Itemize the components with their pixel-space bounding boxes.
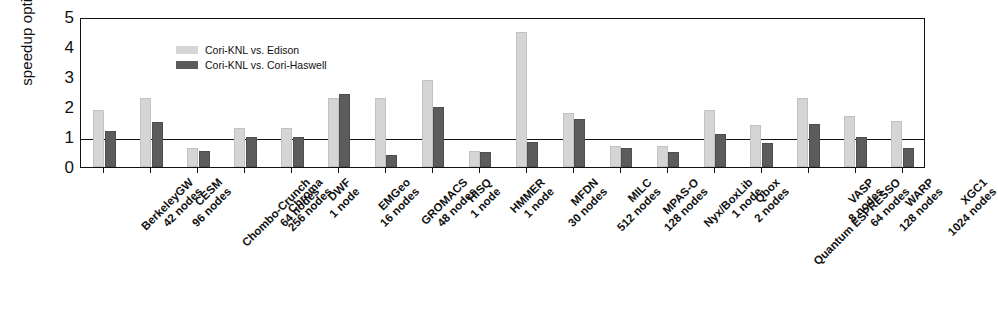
bar-group: [281, 19, 304, 167]
bar: [657, 146, 668, 167]
bar-group: [328, 19, 351, 167]
x-tick-mark: [291, 168, 292, 173]
bar: [480, 152, 491, 167]
legend-swatch-edison: [176, 46, 198, 54]
legend-label-edison: Cori-KNL vs. Edison: [205, 43, 299, 57]
x-tick-mark: [526, 168, 527, 173]
bar: [563, 113, 574, 167]
x-tick-mark: [902, 168, 903, 173]
y-tick-label: 0: [48, 159, 74, 176]
bar: [105, 131, 116, 167]
bar: [199, 151, 210, 168]
bar: [715, 134, 726, 167]
x-tick-label: DWF1 node: [318, 176, 362, 220]
x-tick-label: MPAS-O128 nodes: [652, 176, 709, 233]
bar: [891, 121, 902, 168]
bar: [516, 32, 527, 167]
legend-swatch-haswell: [176, 61, 198, 69]
y-tick-label: 5: [48, 9, 74, 26]
y-axis-title: speedup optimized: [18, 0, 38, 102]
bar: [704, 110, 715, 167]
bar: [527, 142, 538, 168]
x-tick-mark: [479, 168, 480, 173]
y-tick-label: 1: [48, 129, 74, 146]
bar-group: [93, 19, 116, 167]
legend-item: Cori-KNL vs. Cori-Haswell: [176, 58, 327, 72]
bar: [339, 94, 350, 168]
y-tick-label: 2: [48, 99, 74, 116]
bar-group: [516, 19, 539, 167]
bar: [152, 122, 163, 167]
legend: Cori-KNL vs. Edison Cori-KNL vs. Cori-Ha…: [176, 43, 327, 73]
bar: [762, 143, 773, 167]
y-tick-label: 3: [48, 69, 74, 86]
bar: [668, 152, 679, 167]
x-tick-mark: [150, 168, 151, 173]
x-tick-label: HMMER1 node: [508, 176, 556, 224]
bar-group: [844, 19, 867, 167]
bar-group: [704, 19, 727, 167]
bar: [281, 128, 292, 167]
x-tick-mark: [667, 168, 668, 173]
x-tick-mark: [714, 168, 715, 173]
bar: [844, 116, 855, 167]
bar: [610, 146, 621, 167]
bar: [93, 110, 104, 167]
bar: [386, 155, 397, 167]
bar-group: [469, 19, 492, 167]
x-tick-mark: [620, 168, 621, 173]
y-tick-label: 4: [48, 39, 74, 56]
bar-group: [375, 19, 398, 167]
bar-group: [750, 19, 773, 167]
x-tick-mark: [761, 168, 762, 173]
bar: [574, 119, 585, 167]
x-tick-mark: [573, 168, 574, 173]
bar-group: [234, 19, 257, 167]
bar: [797, 98, 808, 167]
bar: [140, 98, 151, 167]
legend-label-haswell: Cori-KNL vs. Cori-Haswell: [205, 58, 327, 72]
bar-group: [187, 19, 210, 167]
plot-area: Cori-KNL vs. Edison Cori-KNL vs. Cori-Ha…: [80, 18, 925, 168]
bar: [469, 151, 480, 168]
bar-group: [891, 19, 914, 167]
x-tick-label: MILC512 nodes: [605, 176, 662, 233]
bar: [621, 148, 632, 168]
x-tick-label: EMGeo16 nodes: [369, 176, 422, 229]
bar: [433, 107, 444, 167]
x-tick-mark: [385, 168, 386, 173]
bar: [293, 137, 304, 167]
legend-item: Cori-KNL vs. Edison: [176, 43, 327, 57]
x-tick-mark: [244, 168, 245, 173]
x-tick-mark: [197, 168, 198, 173]
bar: [246, 137, 257, 167]
bar-group: [140, 19, 163, 167]
bar: [422, 80, 433, 167]
x-tick-mark: [808, 168, 809, 173]
bar-group: [563, 19, 586, 167]
x-tick-mark: [432, 168, 433, 173]
bar: [856, 137, 867, 167]
bar: [187, 148, 198, 168]
bar: [750, 125, 761, 167]
x-tick-mark: [855, 168, 856, 173]
bar: [809, 124, 820, 168]
x-tick-label: MFDN30 nodes: [557, 176, 610, 229]
bar-group: [657, 19, 680, 167]
bar-group: [797, 19, 820, 167]
bar: [375, 98, 386, 167]
x-tick-label: XGC11024 nodes: [936, 176, 998, 238]
bar: [903, 148, 914, 167]
bar-group: [422, 19, 445, 167]
bar: [328, 98, 339, 167]
bar-group: [610, 19, 633, 167]
x-tick-mark: [103, 168, 104, 173]
x-tick-mark: [338, 168, 339, 173]
bar: [234, 128, 245, 167]
